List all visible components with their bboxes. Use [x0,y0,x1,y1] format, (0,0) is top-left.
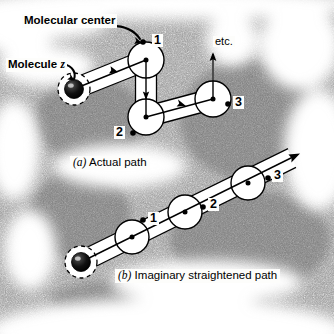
diagram-canvas [0,0,334,334]
caption-panel-b: (b) Imaginary straightened path [115,269,280,283]
node-label-1-a: 1 [152,34,163,47]
callout-etc: etc. [213,36,235,47]
molecule-sphere-a [65,80,84,99]
node-label-2-b: 2 [208,198,219,211]
caption-panel-a: (a) Actual path [70,156,150,170]
caption-text-b: Imaginary straightened path [131,269,277,281]
caption-marker-b: (b) [118,269,131,281]
caption-text-a: Actual path [86,156,146,168]
node-label-3-b: 3 [272,169,283,182]
node-label-3-a: 3 [233,96,244,109]
molecule-highlight-a [68,83,74,87]
molecule-sphere-b [72,253,91,272]
callout-molecular-center: Molecular center [22,14,117,28]
caption-marker-a: (a) [73,156,86,168]
node-label-1-b: 1 [148,212,159,225]
molecule-z-italic: z [60,58,64,70]
figure-molecular-free-path: Molecular center Molecule z etc. 1 2 3 1… [0,0,334,334]
node-label-2-a: 2 [114,126,125,139]
molecule-highlight-b [75,256,81,260]
callout-molecule-z: Molecule z [6,58,67,72]
